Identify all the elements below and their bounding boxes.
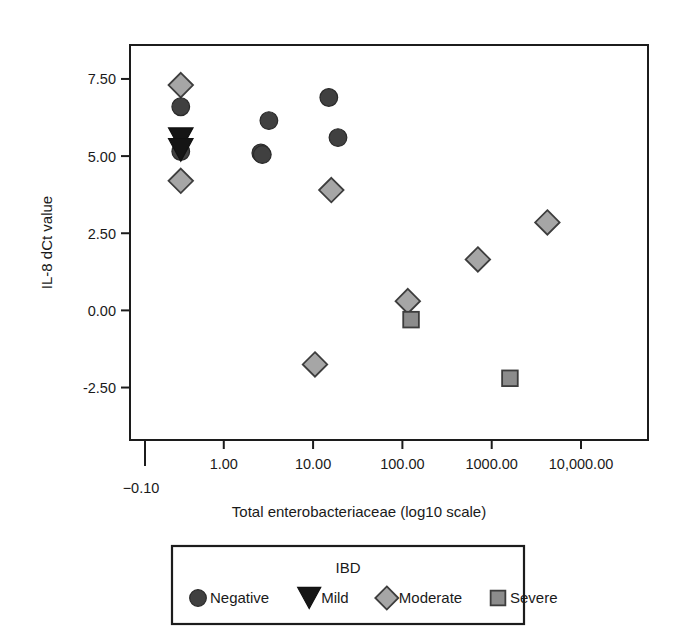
legend-title: IBD [335, 559, 360, 576]
data-point-negative [172, 98, 190, 116]
data-point-negative [253, 146, 271, 164]
legend-label-mild: Mild [321, 589, 349, 606]
plot-frame-group [130, 45, 648, 440]
x-tick-label: 1000.00 [465, 456, 517, 472]
x-tick-label: 10.00 [295, 456, 331, 472]
data-point-negative [320, 89, 338, 107]
y-tick-label: -2.50 [83, 380, 116, 396]
x-tick-label: 10,000.00 [549, 456, 614, 472]
data-point-negative [329, 129, 347, 147]
y-tick-label: 7.50 [88, 71, 116, 87]
data-point-negative [260, 112, 278, 130]
x-origin-tick-label: −0.10 [123, 480, 160, 496]
data-point-severe [403, 312, 419, 328]
chart-canvas: 7.505.002.500.00-2.501.0010.00100.001000… [0, 0, 695, 631]
legend-label-severe: Severe [510, 589, 558, 606]
data-point-severe [502, 370, 518, 386]
legend-marker-square-icon [491, 591, 506, 606]
legend-entry-negative[interactable]: Negative [190, 589, 270, 606]
legend-entry-severe[interactable]: Severe [491, 589, 558, 606]
legend-label-moderate: Moderate [399, 589, 462, 606]
x-tick-label: 1.00 [210, 456, 238, 472]
y-tick-label: 2.50 [88, 226, 116, 242]
legend-box [172, 546, 524, 624]
y-axis-title: IL-8 dCt value [38, 196, 55, 289]
x-tick-label: 100.00 [380, 456, 424, 472]
x-axis-ticks: 1.0010.00100.001000.0010,000.00−0.10 [123, 440, 614, 496]
legend-label-negative: Negative [210, 589, 269, 606]
x-axis-title: Total enterobacteriaceae (log10 scale) [232, 503, 486, 520]
y-axis-ticks: 7.505.002.500.00-2.50 [83, 71, 130, 396]
legend: IBDNegativeMildModerateSevere [172, 546, 558, 624]
plot-frame [130, 45, 648, 440]
scatter-plot-figure: 7.505.002.500.00-2.501.0010.00100.001000… [0, 0, 695, 631]
legend-marker-circle-icon [190, 590, 207, 607]
y-tick-label: 5.00 [88, 149, 116, 165]
y-tick-label: 0.00 [88, 303, 116, 319]
